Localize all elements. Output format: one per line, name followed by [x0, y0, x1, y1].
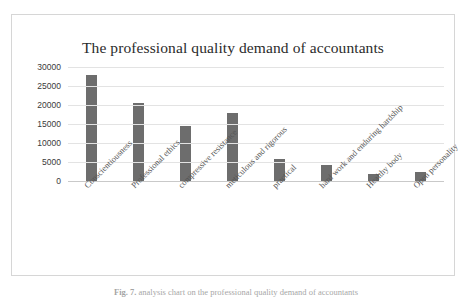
figure-caption: Fig. 7. analysis chart on the profession… — [0, 287, 472, 302]
x-axis-labels: ConscientiousnessProfessional ethicscomp… — [68, 183, 472, 288]
gridline — [68, 67, 444, 68]
bar[interactable] — [86, 75, 97, 181]
y-axis-tick: 20000 — [37, 100, 61, 110]
axis-baseline — [68, 181, 444, 182]
y-axis-tick: 0 — [56, 176, 61, 186]
y-axis-tick: 15000 — [37, 119, 61, 129]
gridline — [68, 86, 444, 87]
y-axis: 300002500020000150001000050000 — [24, 67, 64, 181]
chart-frame: The professional quality demand of accou… — [11, 14, 455, 276]
figure-container: The professional quality demand of accou… — [0, 0, 472, 302]
gridline — [68, 105, 444, 106]
chart-title: The professional quality demand of accou… — [12, 39, 454, 57]
figure-caption-label: Fig. 7. — [114, 287, 136, 297]
figure-caption-text: analysis chart on the professional quali… — [136, 287, 358, 297]
y-axis-tick: 5000 — [42, 157, 61, 167]
y-axis-tick: 30000 — [37, 62, 61, 72]
y-axis-tick: 25000 — [37, 81, 61, 91]
y-axis-tick: 10000 — [37, 138, 61, 148]
